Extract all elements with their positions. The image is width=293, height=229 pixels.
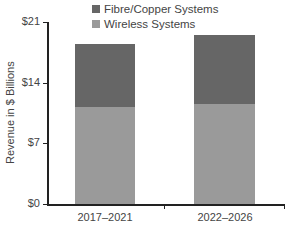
bar-2017-2021-wireless: [75, 107, 135, 204]
bar-2022-2026-fibre: [194, 35, 255, 104]
legend-label-wireless: Wireless Systems: [104, 18, 195, 30]
legend-swatch-wireless: [92, 20, 100, 28]
x-axis: [47, 204, 285, 206]
y-tick-label-21: $21: [4, 15, 40, 27]
y-tick-label-7: $7: [4, 136, 40, 148]
legend-item-fibre: Fibre/Copper Systems: [92, 3, 218, 15]
x-tick-label-2022-2026: 2022–2026: [180, 211, 270, 223]
y-axis: [47, 22, 49, 205]
legend-label-fibre: Fibre/Copper Systems: [104, 3, 218, 15]
y-tick-label-0: $0: [4, 197, 40, 209]
x-tick: [164, 204, 165, 209]
legend-swatch-fibre: [92, 5, 100, 13]
y-tick-label-14: $14: [4, 76, 40, 88]
bar-2022-2026-wireless: [194, 104, 255, 204]
bar-2017-2021-fibre: [75, 44, 135, 107]
legend-item-wireless: Wireless Systems: [92, 18, 195, 30]
x-tick-label-2017-2021: 2017–2021: [60, 211, 150, 223]
x-tick: [284, 204, 285, 209]
